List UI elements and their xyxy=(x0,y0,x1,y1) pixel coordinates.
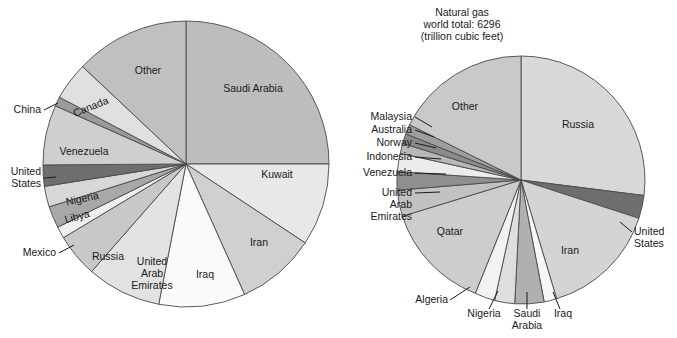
chart-title-line3: (trillion cubic feet) xyxy=(421,30,503,42)
label-iraq: Iraq xyxy=(196,268,214,280)
label-norway-gas: Norway xyxy=(376,136,412,148)
label-malaysia-gas: Malaysia xyxy=(371,110,413,122)
label-other: Other xyxy=(135,64,162,76)
label-china: China xyxy=(14,103,42,115)
label-united-arab-emirates-line2: Arab xyxy=(141,267,163,279)
label-kuwait: Kuwait xyxy=(261,168,293,180)
label-united-arab-emirates-gas-line3: Emirates xyxy=(371,210,412,222)
chart-title-line2: world total: 6296 xyxy=(422,18,500,30)
natural-gas-pie: Natural gas world total: 6296 (trillion … xyxy=(363,6,665,331)
chart-title-line1: Natural gas xyxy=(435,6,489,18)
label-saudi-arabia: Saudi Arabia xyxy=(223,82,283,94)
label-united-states-line1: United xyxy=(11,165,42,177)
label-russia-gas: Russia xyxy=(562,118,594,130)
label-iraq-gas: Iraq xyxy=(554,307,572,319)
oil-reserves-pie: Saudi Arabia Kuwait Iran Iraq United Ara… xyxy=(11,21,329,307)
label-united-arab-emirates-line3: Emirates xyxy=(131,279,172,291)
label-mexico: Mexico xyxy=(23,246,56,258)
leader-algeria xyxy=(450,287,470,300)
label-united-arab-emirates-gas-line1: United xyxy=(382,186,413,198)
label-iran-gas: Iran xyxy=(561,244,579,256)
label-united-states-gas-line2: States xyxy=(634,237,664,249)
label-venezuela-gas: Venezuela xyxy=(363,166,412,178)
label-united-arab-emirates-line1: United xyxy=(137,255,168,267)
two-pie-figure: Saudi Arabia Kuwait Iran Iraq United Ara… xyxy=(0,0,677,338)
label-united-arab-emirates-gas-line2: Arab xyxy=(390,198,412,210)
label-algeria-gas: Algeria xyxy=(415,293,448,305)
label-australia-gas: Australia xyxy=(371,123,412,135)
label-indonesia-gas: Indonesia xyxy=(366,150,412,162)
label-united-states-line2: States xyxy=(11,177,41,189)
figure-canvas: Saudi Arabia Kuwait Iran Iraq United Ara… xyxy=(0,0,677,338)
label-iran: Iran xyxy=(250,236,268,248)
label-saudi-arabia-gas-line2: Arabia xyxy=(512,319,543,331)
label-venezuela: Venezuela xyxy=(59,145,108,157)
label-nigeria-gas: Nigeria xyxy=(467,307,500,319)
label-russia: Russia xyxy=(92,250,124,262)
label-qatar-gas: Qatar xyxy=(437,225,464,237)
label-other-gas: Other xyxy=(452,100,479,112)
label-united-states-gas-line1: United xyxy=(634,225,665,237)
